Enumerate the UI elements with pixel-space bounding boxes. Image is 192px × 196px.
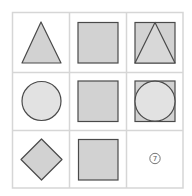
triangle-shape [22, 22, 61, 63]
cell-r3-c3-answer[interactable]: 7 [150, 153, 160, 163]
cell-r3-c2 [79, 140, 119, 181]
square-shape [78, 23, 118, 64]
cell-r2-c1 [22, 82, 61, 121]
cell-r1-c3 [135, 23, 175, 64]
matrix-puzzle: 7 [0, 0, 192, 196]
circle-shape [22, 82, 61, 121]
diamond-shape [21, 139, 62, 180]
answer-marker-label: 7 [153, 155, 157, 163]
square-shape [79, 140, 119, 181]
cell-r3-c1 [21, 139, 62, 180]
cell-r1-c2 [78, 23, 118, 64]
cell-r1-c1 [22, 22, 61, 63]
inscribed-circle-shape [135, 81, 175, 121]
square-shape [78, 81, 118, 122]
cell-r2-c3 [135, 81, 175, 122]
cell-r2-c2 [78, 81, 118, 122]
